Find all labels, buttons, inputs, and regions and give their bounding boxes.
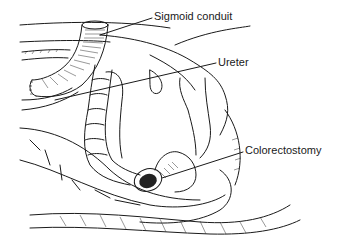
drawing — [0, 0, 338, 249]
leader-ureter — [55, 63, 216, 100]
label-ureter: Ureter — [218, 56, 249, 68]
anatomical-illustration: Sigmoid conduit Ureter Colorectostomy — [0, 0, 338, 249]
label-sigmoid-conduit: Sigmoid conduit — [154, 10, 232, 22]
label-colorectostomy: Colorectostomy — [245, 144, 321, 156]
